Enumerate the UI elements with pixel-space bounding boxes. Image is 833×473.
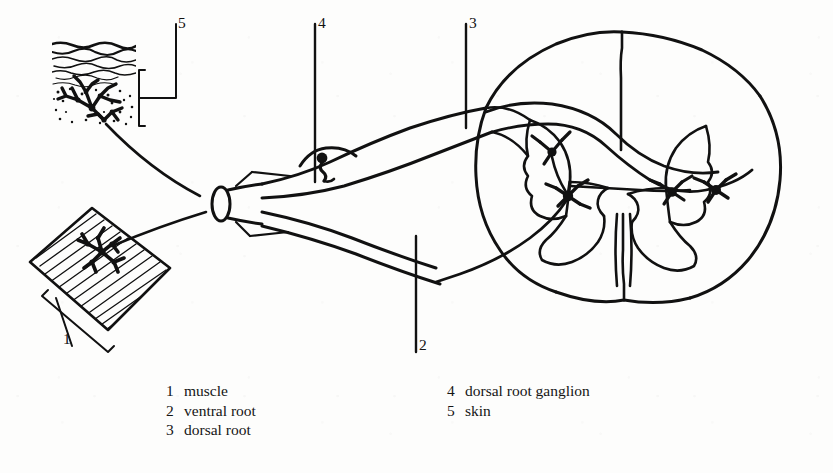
legend-number-4: 4 [447,381,465,401]
legend-left-column: 1 muscle 2 ventral root 3 dorsal root [166,381,256,440]
diagram-canvas [0,0,833,473]
legend-number-5: 5 [447,401,465,421]
legend-right-column: 4 dorsal root ganglion 5 skin [447,381,590,420]
muscle-bracket [42,290,114,352]
callout-number-1: 1 [63,330,71,348]
legend-item-3: 3 dorsal root [166,420,256,440]
legend-label-dorsal-root: dorsal root [184,420,251,440]
callout-number-4: 4 [318,14,326,32]
skin-inset [52,24,176,126]
legend-number-2: 2 [166,401,184,421]
ventral-root-upper-edge [262,212,436,268]
callout-number-5: 5 [178,14,186,32]
legend-item-2: 2 ventral root [166,401,256,421]
legend-item-1: 1 muscle [166,381,256,401]
spinal-cord-outline [476,32,781,303]
legend-number-3: 3 [166,420,184,440]
skin-leader-line [139,24,176,98]
motor-axon-to-muscle [112,212,206,246]
motor-axon-in-cord [436,201,566,282]
left-dorsal-horn-neuron [532,132,570,192]
callout-number-3: 3 [469,14,477,32]
spinal-reflex-arc-figure: 5 4 3 2 1 1 muscle 2 ventral root 3 dors… [0,0,833,473]
legend-label-dorsal-root-ganglion: dorsal root ganglion [465,381,590,401]
grey-matter [524,120,712,271]
legend-item-4: 4 dorsal root ganglion [447,381,590,401]
legend-label-skin: skin [465,401,491,421]
legend-label-ventral-root: ventral root [184,401,256,421]
legend-number-1: 1 [166,381,184,401]
legend-item-5: 5 skin [447,401,590,421]
dorsal-median-sulcus [621,32,622,150]
ventral-median-fissure [623,214,624,300]
callout-number-2: 2 [419,336,427,354]
ventral-root-lower-edge [262,226,440,284]
sensory-axon-from-skin [106,124,200,196]
legend-label-muscle: muscle [184,381,228,401]
